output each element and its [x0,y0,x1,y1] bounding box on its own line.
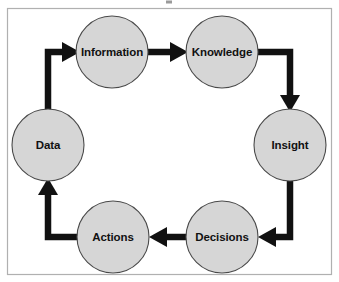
diagram-canvas: Data Information Knowledge Insight Decis… [0,0,339,282]
edge-data-to-information [48,42,80,112]
node-knowledge-label: Knowledge [192,46,252,58]
data-to-actions-cycle-diagram: Data Information Knowledge Insight Decis… [0,0,339,282]
node-actions-label: Actions [92,231,133,243]
node-decisions[interactable]: Decisions [186,201,258,273]
scan-artifact [166,1,172,4]
node-data-label: Data [36,139,61,151]
node-data[interactable]: Data [12,109,84,181]
node-insight-label: Insight [272,139,309,151]
edge-actions-to-data [38,178,78,237]
node-actions[interactable]: Actions [77,201,149,273]
edge-decisions-to-actions [149,227,187,247]
node-information-label: Information [81,46,143,58]
node-information[interactable]: Information [76,16,148,88]
edge-information-to-knowledge [148,42,188,62]
arrow-head-icon [258,227,276,247]
node-insight[interactable]: Insight [254,109,326,181]
arrow-head-icon [170,42,188,62]
arrow-head-icon [149,227,167,247]
node-knowledge[interactable]: Knowledge [186,16,258,88]
edge-knowledge-to-insight [258,52,300,112]
node-decisions-label: Decisions [195,231,248,243]
edge-insight-to-decisions [258,181,290,247]
